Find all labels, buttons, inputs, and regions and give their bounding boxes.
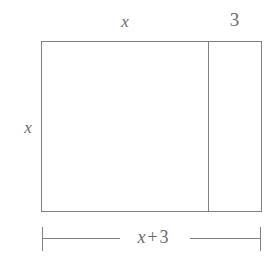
bottom-dimension-label: x+3 — [118, 228, 188, 246]
dimension-rule-right — [190, 238, 261, 239]
rectangle-outline — [41, 41, 262, 212]
dimension-tick-right — [260, 227, 261, 251]
bottom-label-operator: + — [145, 227, 159, 247]
left-height-label-x: x — [20, 119, 36, 136]
interior-divider-line — [208, 41, 209, 212]
dimension-rule-left — [42, 238, 120, 239]
dimension-tick-left — [42, 227, 43, 251]
bottom-label-constant: 3 — [160, 227, 169, 247]
top-width-label-3: 3 — [208, 10, 261, 29]
geometry-figure: x 3 x x+3 — [0, 0, 277, 261]
